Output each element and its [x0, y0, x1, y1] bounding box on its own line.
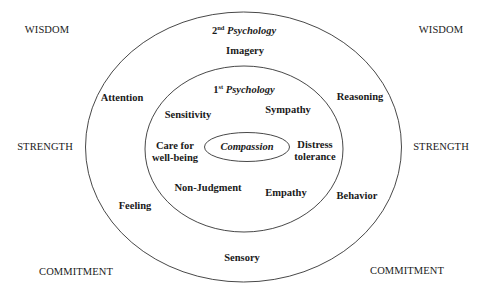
- outer-item-reasoning: Reasoning: [337, 91, 384, 103]
- outer-item-behavior: Behavior: [337, 190, 378, 202]
- outer-ring-title-word: Psychology: [227, 25, 276, 36]
- outer-ring-title: 2nd Psychology: [212, 25, 276, 37]
- outer-item-feeling: Feeling: [119, 200, 152, 212]
- outer-item-attention: Attention: [101, 92, 144, 104]
- inner-item-empathy: Empathy: [265, 187, 306, 199]
- core-label-compassion: Compassion: [220, 141, 273, 153]
- compassion-model-diagram: WISDOM WISDOM STRENGTH STRENGTH COMMITME…: [0, 0, 486, 294]
- corner-strength-right: STRENGTH: [413, 141, 469, 153]
- outer-item-imagery: Imagery: [226, 45, 264, 57]
- outer-item-sensory: Sensory: [224, 252, 260, 264]
- distress-line-1: Distress: [294, 139, 335, 151]
- inner-item-care-for-well-being: Care for well-being: [152, 140, 198, 164]
- inner-ring-title: 1st Psychology: [213, 84, 275, 96]
- corner-wisdom-right: WISDOM: [419, 24, 463, 36]
- care-line-2: well-being: [152, 152, 198, 164]
- inner-item-sensitivity: Sensitivity: [165, 109, 212, 121]
- corner-strength-left: STRENGTH: [17, 141, 73, 153]
- corner-commitment-right: COMMITMENT: [370, 265, 444, 277]
- inner-item-non-judgment: Non-Judgment: [174, 182, 241, 194]
- inner-item-distress-tolerance: Distress tolerance: [294, 139, 335, 163]
- corner-wisdom-left: WISDOM: [25, 24, 69, 36]
- inner-ring-title-word: Psychology: [226, 84, 275, 95]
- corner-commitment-left: COMMITMENT: [39, 266, 113, 278]
- outer-ring-title-suffix: nd: [217, 24, 224, 31]
- inner-ring-title-suffix: st: [218, 83, 223, 90]
- distress-line-2: tolerance: [294, 151, 335, 163]
- inner-item-sympathy: Sympathy: [265, 104, 311, 116]
- care-line-1: Care for: [152, 140, 198, 152]
